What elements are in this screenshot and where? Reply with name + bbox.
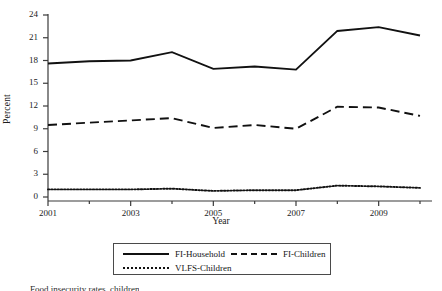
y-tick-label: 24 <box>12 9 38 19</box>
chart-legend: FI-Household FI-Children VLFS-Children <box>113 243 331 275</box>
series-fi-children <box>48 107 420 129</box>
legend-line-dotted-icon <box>123 263 169 273</box>
legend-item-vlfs-children: VLFS-Children <box>114 261 232 274</box>
y-tick-label: 15 <box>12 77 38 87</box>
y-tick-label: 12 <box>12 100 38 110</box>
y-tick-label: 18 <box>12 55 38 65</box>
data-series-lines <box>48 27 420 191</box>
x-tick-label: 2001 <box>25 208 71 218</box>
figure-caption: Food insecurity rates, children <box>30 284 139 291</box>
legend-label: VLFS-Children <box>175 263 232 273</box>
legend-label: FI-Household <box>175 249 225 259</box>
y-tick-label: 6 <box>12 146 38 156</box>
axis-lines <box>48 14 432 201</box>
series-fi-household <box>48 27 420 69</box>
x-tick-label: 2003 <box>108 208 154 218</box>
y-tick-label: 9 <box>12 123 38 133</box>
x-tick-label: 2005 <box>190 208 236 218</box>
series-vlfs-children <box>48 186 420 191</box>
y-tick-label: 21 <box>12 32 38 42</box>
legend-item-fi-children: FI-Children <box>222 247 326 260</box>
y-axis-ticks <box>43 15 48 197</box>
legend-line-solid-icon <box>123 249 169 259</box>
x-axis-ticks <box>48 201 420 206</box>
x-tick-label: 2007 <box>273 208 319 218</box>
y-axis-title-text: Percent <box>2 74 12 144</box>
legend-label: FI-Children <box>283 249 326 259</box>
x-tick-label: 2009 <box>356 208 402 218</box>
y-tick-label: 0 <box>12 191 38 201</box>
y-tick-label: 3 <box>12 168 38 178</box>
legend-line-dashed-icon <box>231 249 277 259</box>
chart-figure: Percent Year 03691215182124 200120032005… <box>0 0 442 291</box>
legend-item-fi-household: FI-Household <box>114 247 225 260</box>
